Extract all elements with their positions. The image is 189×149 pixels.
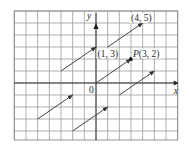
x-axis-label: x (173, 86, 179, 96)
point-label: P(3, 2) (132, 49, 159, 60)
point-coordinates: (1, 3) (98, 49, 119, 60)
point-coordinates: (3, 2) (139, 49, 160, 60)
point-label: (1, 3) (98, 49, 119, 60)
y-axis-label: y (86, 11, 92, 21)
y-axis-arrowhead-icon (93, 23, 98, 29)
coordinate-plane: y x 0 (4, 5)(1, 3)P(3, 2) (0, 0, 189, 149)
point-label: (4, 5) (131, 13, 152, 24)
origin-label: 0 (89, 85, 94, 95)
point-coordinates: (4, 5) (131, 13, 152, 24)
vector-grid-figure: y x 0 (4, 5)(1, 3)P(3, 2) (0, 0, 189, 149)
